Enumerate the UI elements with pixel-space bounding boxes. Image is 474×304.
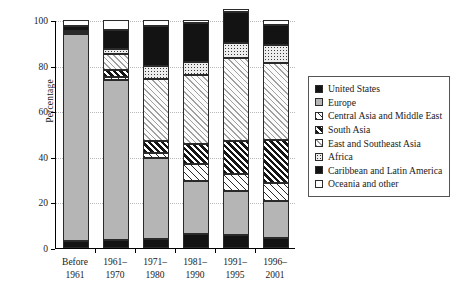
x-axis-label-line: 1996– xyxy=(247,256,303,269)
x-tick-mark xyxy=(175,249,176,253)
bar-5 xyxy=(223,20,249,248)
legend-label: Oceania and other xyxy=(328,178,398,189)
legend-item-1: United States xyxy=(315,82,442,96)
legend-swatch-icon xyxy=(315,85,323,93)
y-tick-label: 80 xyxy=(14,62,48,72)
bar-segment xyxy=(103,240,129,248)
bar-segment xyxy=(143,158,169,239)
x-tick-mark xyxy=(95,249,96,253)
bar-segment xyxy=(103,30,129,48)
bar-segment xyxy=(263,140,289,183)
bar-segment xyxy=(263,238,289,248)
bar-segment xyxy=(183,181,209,235)
bar-segment xyxy=(223,191,249,235)
bar-segment xyxy=(103,54,129,70)
bar-segment xyxy=(183,234,209,248)
plot-area xyxy=(55,21,295,249)
chart-legend: United StatesEuropeCentral Asia and Midd… xyxy=(308,76,450,197)
gridline xyxy=(56,158,295,159)
bar-segment xyxy=(183,23,209,62)
bar-6 xyxy=(263,20,289,248)
bar-segment xyxy=(263,201,289,237)
bar-segment xyxy=(143,66,169,80)
y-tick-label: 0 xyxy=(14,244,48,254)
legend-label: United States xyxy=(328,83,380,94)
legend-label: Caribbean and Latin America xyxy=(328,165,442,176)
x-tick-mark xyxy=(215,249,216,253)
gridline xyxy=(56,21,295,22)
legend-item-5: East and Southeast Asia xyxy=(315,136,442,150)
legend-item-2: Europe xyxy=(315,96,442,110)
bar-segment xyxy=(263,63,289,139)
legend-item-7: Caribbean and Latin America xyxy=(315,164,442,178)
bar-segment xyxy=(143,26,169,66)
bar-segment xyxy=(223,235,249,248)
x-axis-label: 1996–2001 xyxy=(247,256,303,281)
bar-segment xyxy=(223,141,249,174)
legend-item-6: Africa xyxy=(315,150,442,164)
x-tick-mark xyxy=(255,249,256,253)
bar-3 xyxy=(143,20,169,248)
y-tick-mark xyxy=(51,249,55,250)
bar-segment xyxy=(223,58,249,141)
legend-item-3: Central Asia and Middle East xyxy=(315,109,442,123)
bar-segment xyxy=(103,70,129,77)
bar-segment xyxy=(103,20,129,30)
bar-segment xyxy=(143,239,169,248)
legend-label: East and Southeast Asia xyxy=(328,138,421,149)
y-tick-label: 20 xyxy=(14,198,48,208)
bar-4 xyxy=(183,20,209,248)
legend-swatch-icon xyxy=(315,112,323,120)
legend-swatch-icon xyxy=(315,98,323,106)
gridline xyxy=(56,203,295,204)
legend-label: Central Asia and Middle East xyxy=(328,110,442,121)
bar-segment xyxy=(63,241,89,248)
bar-segment xyxy=(223,43,249,58)
bar-segment xyxy=(183,144,209,163)
bar-segment xyxy=(183,75,209,145)
y-tick-label: 60 xyxy=(14,107,48,117)
bar-segment xyxy=(143,79,169,141)
stacked-bar-chart: Percentage 020406080100 Before19611961–1… xyxy=(0,0,474,304)
bar-segment xyxy=(143,141,169,154)
bar-segment xyxy=(263,25,289,46)
legend-item-8: Oceania and other xyxy=(315,177,442,191)
x-axis-label-line: 2001 xyxy=(247,269,303,282)
y-tick-label: 40 xyxy=(14,153,48,163)
bar-1 xyxy=(63,20,89,248)
y-tick-label: 100 xyxy=(14,16,48,26)
gridline xyxy=(56,67,295,68)
bar-segment xyxy=(103,80,129,240)
bar-segment xyxy=(223,12,249,43)
bar-segment xyxy=(263,45,289,63)
legend-swatch-icon xyxy=(315,166,323,174)
legend-label: Africa xyxy=(328,151,353,162)
bar-segment xyxy=(183,164,209,181)
legend-label: South Asia xyxy=(328,124,370,135)
bar-segment xyxy=(63,34,89,240)
bar-segment xyxy=(183,62,209,75)
legend-swatch-icon xyxy=(315,139,323,147)
legend-swatch-icon xyxy=(315,153,323,161)
bar-segment xyxy=(263,183,289,201)
legend-swatch-icon xyxy=(315,180,323,188)
x-tick-mark xyxy=(135,249,136,253)
legend-swatch-icon xyxy=(315,126,323,134)
legend-label: Europe xyxy=(328,97,356,108)
gridline xyxy=(56,112,295,113)
bar-segment xyxy=(223,174,249,191)
bar-2 xyxy=(103,20,129,248)
legend-item-4: South Asia xyxy=(315,123,442,137)
